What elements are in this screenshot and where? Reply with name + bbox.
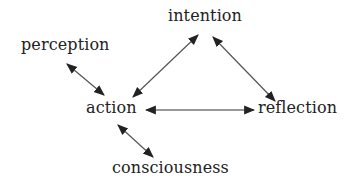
edge-intention-reflection xyxy=(213,37,275,101)
concept-diagram: perception intention action reflection c… xyxy=(0,0,354,188)
bidirectional-arrow-icon xyxy=(213,37,275,101)
node-reflection: reflection xyxy=(258,100,337,116)
edge-intention-action xyxy=(133,35,198,97)
node-intention: intention xyxy=(168,8,242,24)
bidirectional-arrow-icon xyxy=(133,35,198,97)
bidirectional-arrow-icon xyxy=(118,125,153,157)
edge-action-consciousness xyxy=(118,125,153,157)
bidirectional-arrow-icon xyxy=(67,64,104,95)
node-perception: perception xyxy=(21,37,110,53)
node-consciousness: consciousness xyxy=(112,160,229,176)
node-action: action xyxy=(86,100,137,116)
edge-perception-action xyxy=(67,64,104,95)
